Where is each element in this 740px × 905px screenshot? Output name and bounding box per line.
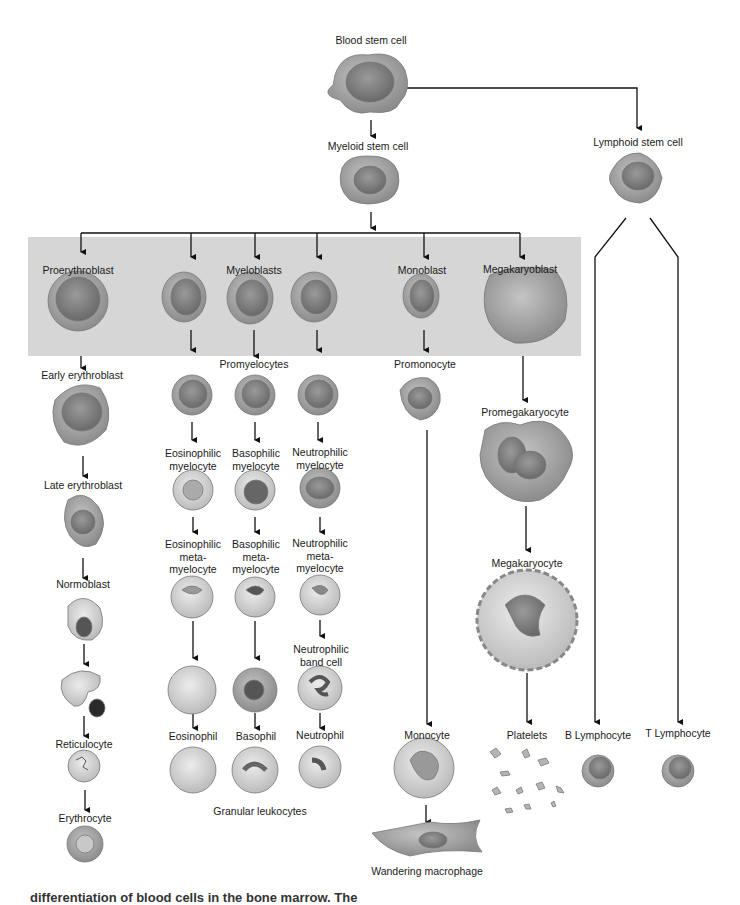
label-promyelocytes: Promyelocytes — [220, 358, 289, 371]
label-monocyte: Monocyte — [404, 729, 450, 742]
label-proerythroblast: Proerythroblast — [42, 264, 113, 277]
label-eosinophilic-metamyelocyte: Eosinophilic meta- myelocyte — [165, 538, 221, 576]
label-platelets: Platelets — [507, 729, 547, 742]
label-early-erythroblast: Early erythroblast — [41, 369, 123, 382]
label-myeloid-stem-cell: Myeloid stem cell — [328, 140, 409, 153]
label-normoblast: Normoblast — [56, 578, 110, 591]
label-reticulocyte: Reticulocyte — [55, 738, 112, 751]
label-neutrophilic-band-cell: Neutrophilic band cell — [293, 643, 348, 668]
label-t-lymphocyte: T Lymphocyte — [645, 727, 710, 740]
label-b-lymphocyte: B Lymphocyte — [565, 729, 631, 742]
label-neutrophilic-metamyelocyte: Neutrophilic meta- myelocyte — [292, 537, 347, 575]
label-neutrophil: Neutrophil — [296, 729, 344, 742]
label-blood-stem-cell: Blood stem cell — [335, 34, 406, 47]
label-granular-leukocytes: Granular leukocytes — [213, 805, 306, 818]
label-lymphoid-stem-cell: Lymphoid stem cell — [593, 136, 682, 149]
label-monoblast: Monoblast — [398, 264, 446, 277]
label-wandering-macrophage: Wandering macrophage — [371, 865, 483, 878]
label-basophilic-myelocyte: Basophilic myelocyte — [232, 447, 280, 472]
label-eosinophilic-myelocyte: Eosinophilic myelocyte — [165, 447, 221, 472]
label-erythrocyte: Erythrocyte — [58, 812, 111, 825]
label-neutrophilic-myelocyte: Neutrophilic myelocyte — [292, 446, 347, 471]
label-basophil: Basophil — [236, 730, 276, 743]
label-promegakaryocyte: Promegakaryocyte — [481, 406, 569, 419]
label-megakaryoblast: Megakaryoblast — [483, 263, 557, 276]
label-basophilic-metamyelocyte: Basophilic meta- myelocyte — [232, 538, 280, 576]
label-myeloblasts: Myeloblasts — [226, 264, 281, 277]
label-eosinophil: Eosinophil — [169, 730, 217, 743]
label-late-erythroblast: Late erythroblast — [44, 479, 122, 492]
label-promonocyte: Promonocyte — [394, 358, 456, 371]
figure-caption-cutoff: differentiation of blood cells in the bo… — [30, 890, 357, 905]
label-megakaryocyte: Megakaryocyte — [491, 557, 562, 570]
